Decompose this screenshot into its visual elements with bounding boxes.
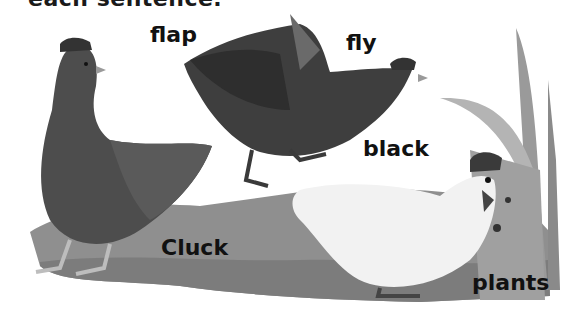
illustrated-page: each sentence.	[0, 0, 576, 316]
word-label-black: black	[363, 138, 429, 160]
word-label-fly: fly	[346, 32, 377, 54]
hens-illustration	[0, 0, 576, 316]
word-label-flap: flap	[150, 24, 197, 46]
word-label-cluck: Cluck	[161, 237, 228, 259]
word-label-plants: plants	[472, 272, 549, 294]
